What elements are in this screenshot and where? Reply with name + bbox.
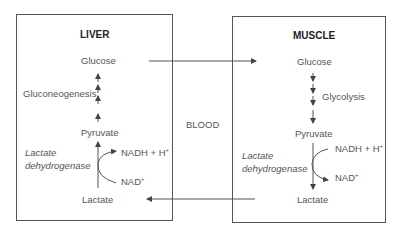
liver-cofactor-curve-icon [98,151,116,183]
muscle-cofactor-curve-icon [312,149,328,180]
arrows-layer [0,0,402,234]
